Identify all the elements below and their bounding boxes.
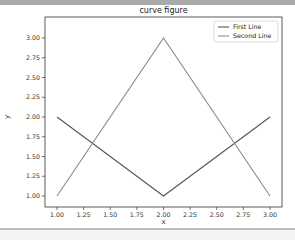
y-tick-label: 1.75 [26, 133, 40, 140]
y-tick-label: 2.50 [26, 74, 40, 81]
x-tick-label: 2.25 [183, 211, 197, 218]
y-axis-ticks: 1.001.251.501.752.002.252.502.753.00 [26, 34, 45, 199]
legend-label-second-line: Second Line [233, 32, 271, 39]
y-axis-label: y [3, 115, 11, 119]
chart-title: curve figure [139, 6, 187, 15]
x-tick-label: 2.00 [156, 211, 170, 218]
x-tick-label: 1.50 [103, 211, 117, 218]
x-tick-label: 1.00 [50, 211, 64, 218]
y-tick-label: 2.25 [26, 93, 40, 100]
x-axis-label: x [161, 218, 165, 226]
y-tick-label: 3.00 [26, 34, 40, 41]
x-axis-ticks: 1.001.251.501.752.002.252.502.753.00 [50, 207, 277, 218]
bottom-area [0, 230, 295, 240]
line-chart: curve figure 1.001.251.501.752.002.252.5… [0, 0, 295, 240]
x-tick-label: 1.75 [130, 211, 144, 218]
x-tick-label: 3.00 [263, 211, 277, 218]
y-tick-label: 2.00 [26, 113, 40, 120]
x-tick-label: 2.50 [210, 211, 224, 218]
x-tick-label: 1.25 [77, 211, 91, 218]
y-tick-label: 1.00 [26, 192, 40, 199]
legend-label-first-line: First Line [233, 23, 262, 30]
y-tick-label: 1.50 [26, 153, 40, 160]
plot-area [45, 17, 282, 207]
legend: First Line Second Line [214, 21, 278, 42]
y-tick-label: 1.25 [26, 172, 40, 179]
x-tick-label: 2.75 [236, 211, 250, 218]
y-tick-label: 2.75 [26, 54, 40, 61]
